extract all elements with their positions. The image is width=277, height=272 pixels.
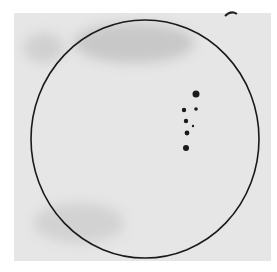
sunspot [182,108,186,112]
sunspot [183,145,189,151]
sunspot [184,119,188,123]
sunspot [194,107,198,111]
sun-drawing [0,0,277,272]
sunspot [193,91,200,98]
solar-disk-outline [31,20,259,258]
sunspot-group [182,91,200,152]
handwriting-mark [225,12,237,16]
sunspot [192,125,194,127]
sunspot [185,131,190,136]
